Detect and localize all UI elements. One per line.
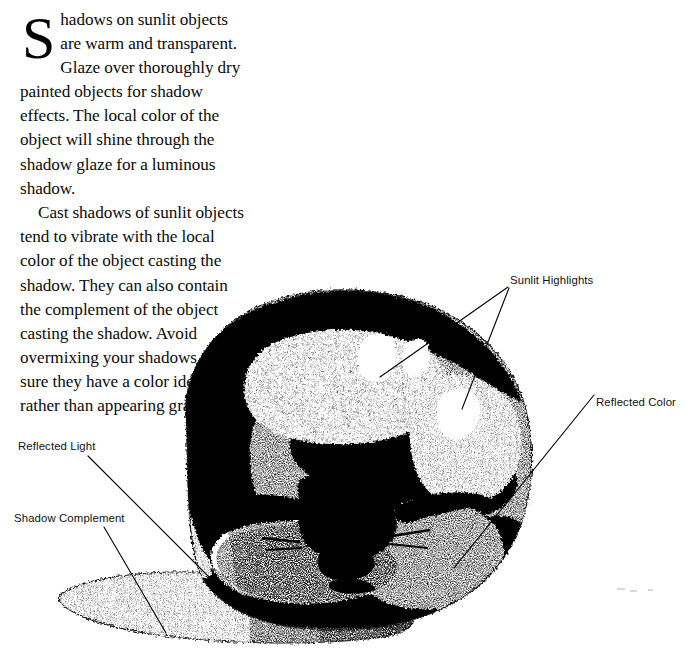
paper-specks	[617, 588, 653, 592]
annotation-reflected-color: Reflected Color	[596, 396, 676, 409]
annotation-reflected-light: Reflected Light	[18, 440, 96, 453]
paragraph-one: Shadows on sunlit objects are warm and t…	[20, 8, 244, 201]
annotation-shadow-complement: Shadow Complement	[14, 512, 125, 525]
cat-illustration	[0, 250, 694, 666]
annotation-sunlit-highlights: Sunlit Highlights	[510, 274, 593, 287]
cat-body	[170, 280, 550, 650]
figure-page: Shadows on sunlit objects are warm and t…	[0, 0, 694, 666]
cat-illustration-svg	[0, 250, 694, 666]
drop-cap-letter: S	[20, 10, 60, 62]
